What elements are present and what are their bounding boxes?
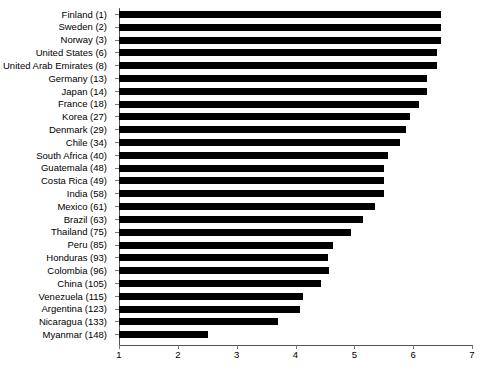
x-axis-tick-label: 5 bbox=[352, 350, 357, 360]
x-axis-tick-label: 3 bbox=[234, 350, 239, 360]
category-label: United Arab Emirates (8) bbox=[0, 59, 113, 72]
bar bbox=[119, 49, 437, 56]
bar-row bbox=[119, 59, 472, 72]
y-axis-tick-mark bbox=[115, 52, 119, 53]
bar-row bbox=[119, 226, 472, 239]
bar-row bbox=[119, 187, 472, 200]
y-axis-tick-mark bbox=[115, 270, 119, 271]
bar-row bbox=[119, 8, 472, 21]
category-label: Germany (13) bbox=[0, 72, 113, 85]
bar bbox=[119, 165, 384, 172]
category-label: Brazil (63) bbox=[0, 213, 113, 226]
bar bbox=[119, 37, 441, 44]
bar bbox=[119, 190, 384, 197]
bar-row bbox=[119, 136, 472, 149]
category-label: Argentina (123) bbox=[0, 303, 113, 316]
bar-row bbox=[119, 290, 472, 303]
category-label: Myanmar (148) bbox=[0, 328, 113, 341]
y-axis-tick-mark bbox=[115, 219, 119, 220]
y-axis-tick-mark bbox=[115, 65, 119, 66]
y-axis-tick-mark bbox=[115, 245, 119, 246]
bar-row bbox=[119, 251, 472, 264]
x-axis-tick-label: 6 bbox=[411, 350, 416, 360]
bar bbox=[119, 62, 437, 69]
bar-row bbox=[119, 72, 472, 85]
category-label: Japan (14) bbox=[0, 85, 113, 98]
bar-row bbox=[119, 34, 472, 47]
bar bbox=[119, 203, 375, 210]
y-axis-tick-mark bbox=[115, 257, 119, 258]
bar-row bbox=[119, 213, 472, 226]
category-label: Chile (34) bbox=[0, 136, 113, 149]
bar bbox=[119, 75, 427, 82]
category-label: Colombia (96) bbox=[0, 264, 113, 277]
bar-row bbox=[119, 277, 472, 290]
x-axis-tick-label: 4 bbox=[293, 350, 298, 360]
y-axis-tick-mark bbox=[115, 180, 119, 181]
y-axis-tick-mark bbox=[115, 193, 119, 194]
x-axis-tick-label: 1 bbox=[116, 350, 121, 360]
category-label: India (58) bbox=[0, 187, 113, 200]
bar bbox=[119, 101, 419, 108]
bar bbox=[119, 113, 410, 120]
value-axis-ticks: 1234567 bbox=[119, 345, 472, 365]
y-axis-tick-mark bbox=[115, 168, 119, 169]
bar-row bbox=[119, 21, 472, 34]
bar-row bbox=[119, 111, 472, 124]
bar bbox=[119, 280, 321, 287]
y-axis-tick-mark bbox=[115, 116, 119, 117]
category-label: Guatemala (48) bbox=[0, 162, 113, 175]
category-label: Costa Rica (49) bbox=[0, 175, 113, 188]
bar bbox=[119, 11, 441, 18]
category-label: Sweden (2) bbox=[0, 21, 113, 34]
y-axis-tick-mark bbox=[115, 78, 119, 79]
y-axis-tick-mark bbox=[115, 321, 119, 322]
bar bbox=[119, 242, 333, 249]
bar-row bbox=[119, 303, 472, 316]
bar bbox=[119, 126, 406, 133]
y-axis-tick-mark bbox=[115, 334, 119, 335]
y-axis-tick-mark bbox=[115, 104, 119, 105]
bar-chart: Finland (1)Sweden (2)Norway (3)United St… bbox=[0, 0, 481, 368]
bar-row bbox=[119, 175, 472, 188]
y-axis-tick-mark bbox=[115, 283, 119, 284]
bar bbox=[119, 267, 329, 274]
y-axis-tick-mark bbox=[115, 40, 119, 41]
category-label: Thailand (75) bbox=[0, 226, 113, 239]
category-label: Nicaragua (133) bbox=[0, 316, 113, 329]
y-axis-tick-mark bbox=[115, 129, 119, 130]
bar-row bbox=[119, 149, 472, 162]
y-axis-tick-mark bbox=[115, 206, 119, 207]
category-label: Peru (85) bbox=[0, 239, 113, 252]
bar bbox=[119, 152, 388, 159]
bar-row bbox=[119, 46, 472, 59]
bar bbox=[119, 293, 303, 300]
category-label: Mexico (61) bbox=[0, 200, 113, 213]
bar bbox=[119, 216, 363, 223]
category-label: Finland (1) bbox=[0, 8, 113, 21]
category-label: South Africa (40) bbox=[0, 149, 113, 162]
y-axis-tick-mark bbox=[115, 296, 119, 297]
category-label: China (105) bbox=[0, 277, 113, 290]
bar-row bbox=[119, 264, 472, 277]
y-axis-tick-mark bbox=[115, 27, 119, 28]
bar-row bbox=[119, 200, 472, 213]
bar bbox=[119, 177, 384, 184]
bar bbox=[119, 306, 300, 313]
y-axis-tick-mark bbox=[115, 142, 119, 143]
bar-series bbox=[119, 8, 472, 341]
bar bbox=[119, 331, 208, 338]
y-axis-tick-mark bbox=[115, 14, 119, 15]
category-label: United States (6) bbox=[0, 46, 113, 59]
x-axis-tick-label: 7 bbox=[469, 350, 474, 360]
bar bbox=[119, 318, 278, 325]
x-axis-tick-label: 2 bbox=[175, 350, 180, 360]
bar-row bbox=[119, 85, 472, 98]
category-label: Venezuela (115) bbox=[0, 290, 113, 303]
category-label: Honduras (93) bbox=[0, 251, 113, 264]
y-axis-tick-mark bbox=[115, 155, 119, 156]
category-axis-labels: Finland (1)Sweden (2)Norway (3)United St… bbox=[0, 8, 113, 341]
category-label: Norway (3) bbox=[0, 34, 113, 47]
category-label: Denmark (29) bbox=[0, 123, 113, 136]
bar bbox=[119, 229, 351, 236]
